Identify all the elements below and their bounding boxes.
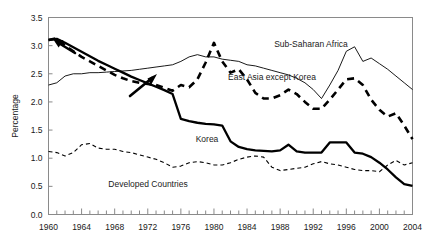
line-chart: 0.00.51.01.52.02.53.03.5 196019641968197…	[0, 0, 438, 249]
x-tick-label: 1960	[39, 222, 58, 232]
x-tick-label: 1996	[337, 222, 356, 232]
x-tick-label: 1984	[238, 222, 257, 232]
chart-figure: 0.00.51.01.52.02.53.03.5 196019641968197…	[0, 0, 438, 249]
y-tick-label: 0.5	[31, 181, 43, 191]
x-tick-label: 1980	[204, 222, 223, 232]
x-tick-label: 2004	[403, 222, 422, 232]
y-tick-label: 2.5	[31, 69, 43, 79]
y-tick-label: 1.5	[31, 125, 43, 135]
series-label-developed-countries: Developed Countries	[108, 179, 187, 189]
y-axis-title: Percentage	[10, 94, 20, 138]
y-tick-label: 3.0	[31, 41, 43, 51]
series-label-korea: Korea	[196, 134, 219, 144]
x-tick-label: 1988	[271, 222, 290, 232]
y-tick-label: 0.0	[31, 210, 43, 220]
y-tick-label: 3.5	[31, 13, 43, 23]
series-label-sub-saharan-africa: Sub-Saharan Africa	[274, 39, 348, 49]
x-tick-label: 1964	[72, 222, 91, 232]
x-tick-label: 1976	[171, 222, 190, 232]
x-tick-label: 1972	[138, 222, 157, 232]
y-tick-label: 1.0	[31, 153, 43, 163]
series-label-east-asia: East Asia except Korea	[228, 72, 316, 82]
plot-frame	[49, 18, 413, 215]
x-tick-label: 1968	[105, 222, 124, 232]
x-tick-label: 2000	[370, 222, 389, 232]
x-tick-label: 1992	[304, 222, 323, 232]
y-tick-label: 2.0	[31, 97, 43, 107]
